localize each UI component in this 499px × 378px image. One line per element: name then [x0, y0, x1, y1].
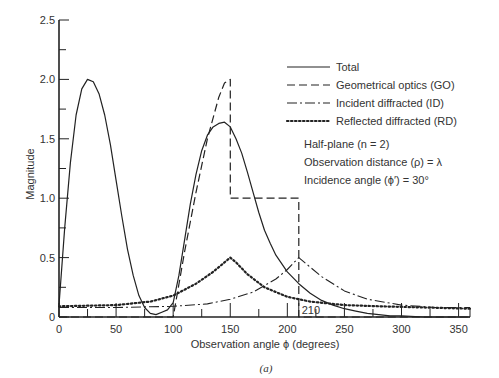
- x-tick-label: 150: [221, 323, 239, 335]
- y-tick-label: 1.5: [40, 133, 55, 145]
- series-dash-dot: [59, 258, 470, 308]
- notes: Half-plane (n = 2)Observation distance (…: [304, 138, 443, 186]
- x-tick-label: 300: [392, 323, 410, 335]
- figure-caption: (a): [260, 362, 273, 375]
- chart-note: Observation distance (ρ) = λ: [304, 156, 443, 168]
- chart-note: Half-plane (n = 2): [304, 138, 389, 150]
- legend-label: Total: [336, 61, 359, 73]
- y-tick-label: 0.5: [40, 252, 55, 264]
- x-tick-label: 50: [110, 323, 122, 335]
- x-tick-label: 0: [56, 323, 62, 335]
- annotation-210: 210: [302, 304, 320, 316]
- y-axis-label: Magnitude: [24, 148, 36, 199]
- y-tick-label: 1.0: [40, 192, 55, 204]
- x-tick-label: 350: [449, 323, 467, 335]
- y-tick-label: 2.0: [40, 73, 55, 85]
- legend-label: Reflected diffracted (RD): [336, 115, 457, 127]
- chart: 00.51.01.52.02.5050100150200250300350210…: [0, 0, 499, 378]
- x-tick-label: 100: [164, 323, 182, 335]
- legend-label: Geometrical optics (GO): [336, 79, 455, 91]
- x-axis-label: Observation angle ϕ (degrees): [191, 338, 340, 350]
- chart-note: Incidence angle (ϕ′) = 30°: [304, 174, 429, 186]
- x-tick-label: 200: [278, 323, 296, 335]
- y-tick-label: 0: [49, 311, 55, 323]
- series-dotted: [59, 258, 470, 309]
- legend: TotalGeometrical optics (GO)Incident dif…: [287, 61, 457, 127]
- legend-label: Incident diffracted (ID): [336, 97, 444, 109]
- x-tick-label: 250: [335, 323, 353, 335]
- y-tick-label: 2.5: [40, 14, 55, 26]
